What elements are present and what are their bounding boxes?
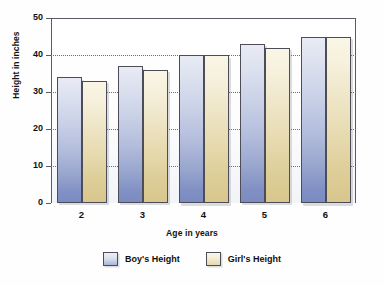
bar-girls-age-6 — [326, 37, 351, 204]
bar-boys-age-5 — [240, 44, 265, 203]
bar-girls-age-5 — [265, 48, 290, 203]
y-tick-label-30: 30 — [9, 86, 43, 96]
y-tick-mark-40 — [46, 55, 51, 56]
height-by-age-bar-chart: Height in inches 01020304050 23456 Age i… — [0, 0, 384, 285]
bar-boys-age-3 — [118, 66, 143, 203]
bar-girls-age-3 — [143, 70, 168, 203]
legend-label: Girl's Height — [228, 254, 281, 264]
y-axis-line — [51, 18, 52, 203]
y-axis-title: Height in inches — [11, 5, 21, 125]
bar-girls-age-2 — [82, 81, 107, 203]
bar-girls-age-4 — [204, 55, 229, 203]
x-tick-label-6: 6 — [306, 209, 346, 220]
bar-boys-age-2 — [57, 77, 82, 203]
y-tick-label-40: 40 — [9, 49, 43, 59]
x-tick-label-2: 2 — [62, 209, 102, 220]
legend-swatch-icon-girls — [206, 252, 221, 266]
x-tick-label-4: 4 — [184, 209, 224, 220]
y-tick-mark-0 — [46, 203, 51, 204]
chart-legend: Boy's HeightGirl's Height — [0, 252, 384, 266]
y-tick-mark-20 — [46, 129, 51, 130]
y-tick-label-50: 50 — [9, 12, 43, 22]
x-tick-label-5: 5 — [245, 209, 285, 220]
y-tick-mark-30 — [46, 92, 51, 93]
legend-swatch-icon-boys — [103, 252, 118, 266]
bar-boys-age-4 — [179, 55, 204, 203]
y-tick-label-20: 20 — [9, 123, 43, 133]
y-tick-label-10: 10 — [9, 160, 43, 170]
y-tick-mark-10 — [46, 166, 51, 167]
y-tick-label-0: 0 — [9, 197, 43, 207]
legend-entry-boys: Boy's Height — [103, 252, 180, 266]
x-tick-label-3: 3 — [123, 209, 163, 220]
legend-label: Boy's Height — [125, 254, 180, 264]
legend-entry-girls: Girl's Height — [206, 252, 281, 266]
y-tick-mark-50 — [46, 18, 51, 19]
x-axis-title: Age in years — [0, 228, 384, 238]
bar-boys-age-6 — [301, 37, 326, 204]
